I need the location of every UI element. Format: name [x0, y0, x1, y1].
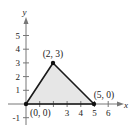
- x-tick-label-5: 5: [92, 108, 97, 118]
- vertex-origin-dot: [24, 102, 28, 106]
- vertex-label-origin: (0, 0): [30, 108, 51, 119]
- y-tick-label-3: 3: [16, 58, 21, 68]
- y-axis: [24, 17, 29, 125]
- y-axis-label: y: [22, 7, 27, 17]
- x-axis-label: x: [123, 100, 128, 110]
- vertex-5-0-dot: [92, 102, 96, 106]
- x-tick-label-4: 4: [79, 108, 84, 118]
- y-tick-label-4: 4: [16, 44, 21, 54]
- triangle-diagram: x y 3 4 5 6 1 2 3 4 5 -1 (0, 0) (2, 3) (…: [0, 0, 134, 131]
- y-tick-label-1: 1: [16, 85, 21, 95]
- x-tick-label-6: 6: [106, 108, 111, 118]
- y-tick-label-2: 2: [16, 72, 21, 82]
- vertex-2-3-dot: [51, 61, 55, 65]
- y-tick-label-neg1: -1: [13, 113, 21, 123]
- x-tick-label-3: 3: [65, 108, 70, 118]
- y-axis-arrow-icon: [24, 17, 29, 24]
- vertex-label-5-0: (5, 0): [94, 90, 115, 101]
- y-tick-label-5: 5: [16, 31, 21, 41]
- x-axis-arrow-icon: [117, 102, 124, 107]
- vertex-label-2-3: (2, 3): [43, 49, 64, 60]
